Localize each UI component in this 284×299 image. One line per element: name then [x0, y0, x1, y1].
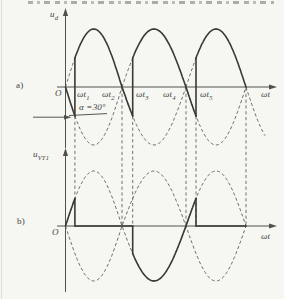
y-axis-label-ud: ud: [50, 10, 58, 20]
x-axis-label-b: ωt: [261, 232, 270, 241]
x-axis-label-a: ωt: [261, 90, 270, 99]
scanned-figure-page: ud a) O ωt1 ωt2 ωt3 ωt4 ωt5 ωt α =30° uV…: [0, 0, 284, 299]
panel-b-label: b): [17, 217, 25, 226]
tick-omega-t5: ωt5: [200, 90, 213, 100]
tick-omega-t3: ωt3: [136, 90, 149, 100]
tick-omega-t4: ωt4: [163, 90, 176, 100]
y-axis-label-uvt1: uVT1: [33, 150, 49, 160]
panel-a-label: a): [16, 81, 23, 90]
tick-omega-t1: ωt1: [77, 90, 90, 100]
origin-label-a: O: [55, 89, 62, 98]
tick-omega-t2: ωt2: [102, 90, 115, 100]
alpha-annotation-label: α =30°: [79, 103, 106, 112]
origin-label-b: O: [52, 228, 59, 237]
